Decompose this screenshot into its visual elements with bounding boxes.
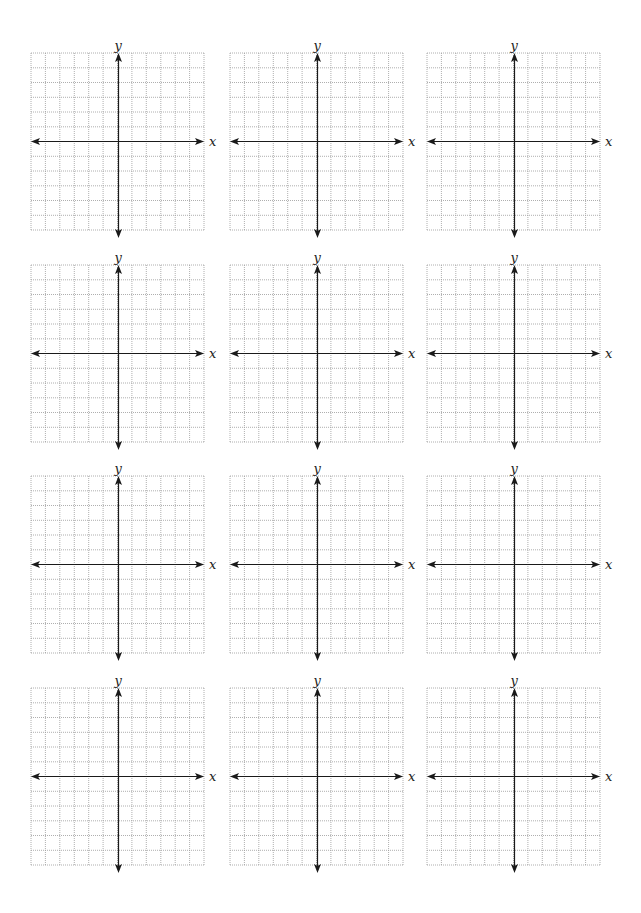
y-axis-label: y xyxy=(114,461,123,476)
y-axis-label: y xyxy=(313,461,322,476)
grid-svg: xy xyxy=(427,688,620,875)
x-axis-label: x xyxy=(605,769,613,784)
coordinate-grid: xy xyxy=(31,476,231,676)
y-axis-label: y xyxy=(114,250,123,265)
grid-svg: xy xyxy=(427,265,620,452)
x-axis-label: x xyxy=(408,134,416,149)
coordinate-grid: xy xyxy=(230,265,430,465)
coordinate-grid: xy xyxy=(31,265,231,465)
grid-svg: xy xyxy=(230,476,423,663)
coordinate-grid: xy xyxy=(230,476,430,676)
y-axis-label: y xyxy=(510,673,519,688)
y-axis-label: y xyxy=(510,38,519,53)
y-axis-label: y xyxy=(114,38,123,53)
grid-svg: xy xyxy=(230,688,423,875)
x-axis-label: x xyxy=(209,769,217,784)
x-axis-label: x xyxy=(209,346,217,361)
grid-svg: xy xyxy=(31,688,224,875)
x-axis-label: x xyxy=(408,769,416,784)
x-axis-label: x xyxy=(605,346,613,361)
x-axis-label: x xyxy=(408,346,416,361)
coordinate-grid: xy xyxy=(427,53,627,253)
grid-svg: xy xyxy=(427,53,620,240)
coordinate-grid: xy xyxy=(230,688,430,888)
coordinate-grid: xy xyxy=(427,476,627,676)
grid-svg: xy xyxy=(31,476,224,663)
y-axis-label: y xyxy=(510,461,519,476)
y-axis-label: y xyxy=(313,250,322,265)
grid-svg: xy xyxy=(31,265,224,452)
y-axis-label: y xyxy=(313,673,322,688)
y-axis-label: y xyxy=(510,250,519,265)
x-axis-label: x xyxy=(209,134,217,149)
y-axis-label: y xyxy=(114,673,123,688)
grid-svg: xy xyxy=(31,53,224,240)
x-axis-label: x xyxy=(605,557,613,572)
coordinate-grid: xy xyxy=(31,688,231,888)
coordinate-grid: xy xyxy=(31,53,231,253)
x-axis-label: x xyxy=(408,557,416,572)
x-axis-label: x xyxy=(605,134,613,149)
coordinate-grid: xy xyxy=(230,53,430,253)
grid-svg: xy xyxy=(230,53,423,240)
y-axis-label: y xyxy=(313,38,322,53)
grid-svg: xy xyxy=(427,476,620,663)
grid-svg: xy xyxy=(230,265,423,452)
coordinate-grid: xy xyxy=(427,688,627,888)
x-axis-label: x xyxy=(209,557,217,572)
coordinate-grid: xy xyxy=(427,265,627,465)
